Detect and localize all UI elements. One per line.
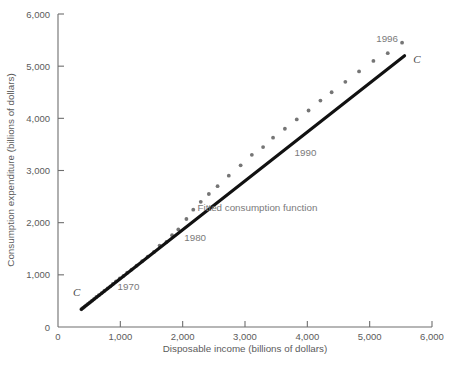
axes-group: [58, 14, 432, 327]
data-point: [307, 109, 311, 113]
data-point: [216, 184, 220, 188]
data-point: [319, 99, 323, 103]
data-point: [271, 136, 275, 140]
chart-svg: 01,0002,0003,0004,0005,0006,000 01,0002,…: [0, 0, 453, 365]
curve-labels-layer: CC: [73, 53, 421, 299]
year-label-1980: 1980: [184, 232, 206, 243]
data-point: [250, 153, 254, 157]
data-point: [343, 80, 347, 84]
data-point: [295, 117, 299, 121]
year-label-1996: 1996: [376, 33, 398, 44]
x-tick-label: 6,000: [420, 331, 444, 342]
y-tick-label: 6,000: [26, 9, 50, 20]
curve-label-c-lower: C: [73, 286, 81, 298]
y-tick-label: 1,000: [26, 269, 50, 280]
data-point: [386, 51, 390, 55]
fitted-line-layer: [81, 56, 404, 310]
data-point: [239, 163, 243, 167]
x-tick-label: 1,000: [108, 331, 132, 342]
y-tick-label: 2,000: [26, 217, 50, 228]
data-point: [227, 174, 231, 178]
curve-label-c-upper: C: [413, 53, 421, 65]
data-point: [372, 59, 376, 63]
x-axis-ticks: 01,0002,0003,0004,0005,0006,000: [55, 321, 444, 342]
data-point: [191, 208, 195, 212]
annotations-layer: 1970198019901996Fitted consumption funct…: [118, 33, 399, 293]
x-tick-label: 4,000: [295, 331, 319, 342]
x-tick-label: 2,000: [171, 331, 195, 342]
x-tick-label: 5,000: [358, 331, 382, 342]
data-point: [400, 41, 404, 45]
fitted-function-label: Fitted consumption function: [198, 202, 318, 213]
y-tick-label: 4,000: [26, 113, 50, 124]
data-point: [330, 90, 334, 94]
x-tick-label: 0: [55, 331, 60, 342]
y-axis-title: Consumption expenditure (billions of dol…: [5, 73, 16, 266]
x-tick-label: 3,000: [233, 331, 257, 342]
fitted-consumption-line: [81, 56, 404, 310]
data-point: [185, 217, 189, 221]
data-point: [207, 192, 211, 196]
year-label-1970: 1970: [118, 281, 140, 292]
y-tick-label: 5,000: [26, 61, 50, 72]
x-axis-title: Disposable income (billions of dollars): [163, 343, 327, 354]
year-label-1990: 1990: [295, 147, 317, 158]
data-point: [283, 127, 287, 131]
data-point: [261, 145, 265, 149]
y-tick-label: 3,000: [26, 165, 50, 176]
consumption-function-chart: 01,0002,0003,0004,0005,0006,000 01,0002,…: [0, 0, 453, 365]
data-point: [357, 69, 361, 73]
y-tick-label: 0: [45, 322, 50, 333]
